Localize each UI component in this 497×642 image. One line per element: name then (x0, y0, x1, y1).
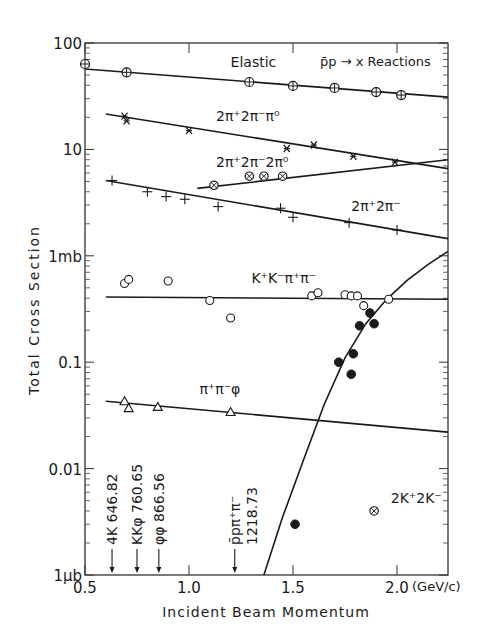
y-tick-label: 0.1 (58, 354, 82, 372)
marker-plus (344, 218, 354, 228)
series-label: 2π⁺2π⁻2π⁰ (216, 154, 289, 170)
marker-circle-plus (289, 81, 298, 90)
marker-filled-circle (355, 321, 364, 330)
marker-circle-plus (122, 68, 131, 77)
x-tick-label: 1.5 (281, 579, 305, 597)
y-tick-label: 1μb (53, 567, 82, 585)
y-axis-label: Total Cross Section (26, 225, 42, 396)
marker-circle (353, 292, 361, 300)
cross-section-chart: 0.51.01.52.0100101mb0.10.011μb Elastic2π… (0, 0, 497, 642)
chart-title: p̄p → x Reactions (320, 54, 431, 69)
marker-plus (288, 212, 298, 222)
marker-asterisk (186, 127, 192, 134)
marker-circle-plus (397, 91, 406, 100)
series-label: 2K⁺2K⁻ (391, 490, 442, 506)
marker-dot (347, 370, 356, 379)
threshold-label: 4K 646.82 (104, 473, 120, 545)
marker-plus (213, 202, 223, 212)
marker-plus (161, 192, 171, 202)
threshold-markers: 4K 646.82KKφ 760.65φφ 866.56p̄pπ⁺π⁻1218.… (104, 464, 260, 573)
marker-plus (392, 225, 402, 235)
series-labels: Elastic2π⁺2π⁻π⁰2π⁺2π⁻2π⁰2π⁺2π⁻K⁺K⁻π⁺π⁻π⁺… (199, 54, 441, 507)
series-label: 2π⁺2π⁻π⁰ (216, 108, 280, 124)
series-label: 2π⁺2π⁻ (351, 198, 400, 214)
marker-dot (349, 349, 358, 358)
marker-circle (125, 275, 133, 283)
marker-dot (291, 520, 300, 529)
plot-svg: 0.51.01.52.0100101mb0.10.011μb Elastic2π… (0, 0, 497, 642)
marker-circle-plus (81, 59, 90, 68)
threshold-label: φφ 866.56 (151, 473, 167, 545)
marker-circle-plus (245, 77, 254, 86)
marker-filled-circle (349, 349, 358, 358)
series-label: Elastic (231, 54, 277, 70)
marker-open-circle (314, 289, 322, 297)
marker-circle-plus (330, 83, 339, 92)
marker-open-circle (385, 295, 393, 303)
marker-circle-x (260, 172, 268, 180)
marker-plus (107, 176, 117, 186)
marker-asterisk (284, 145, 290, 152)
y-tick-label: 1mb (48, 248, 82, 266)
marker-circle (227, 314, 235, 322)
threshold-arrowhead (135, 567, 140, 573)
marker-circle-plus (372, 88, 381, 97)
y-tick-label: 0.01 (49, 461, 82, 479)
x-axis-label: Incident Beam Momentum (162, 604, 370, 620)
threshold-arrowhead (110, 567, 115, 573)
marker-plus (276, 203, 286, 213)
series-label: π⁺π⁻φ (199, 381, 240, 397)
marker-open-circle (206, 297, 214, 305)
marker-filled-circle (347, 370, 356, 379)
threshold-label: KKφ 760.65 (129, 464, 145, 545)
marker-circle-x (245, 172, 253, 180)
marker-filled-circle (334, 358, 343, 367)
fit-line (106, 297, 448, 299)
marker-open-circle (125, 275, 133, 283)
fit-line (85, 69, 448, 97)
marker-circle-x (210, 181, 218, 189)
marker-circle (360, 302, 368, 310)
marker-triangle (120, 397, 129, 405)
marker-open-circle (360, 302, 368, 310)
series-label: K⁺K⁻π⁺π⁻ (251, 270, 316, 286)
marker-dot (370, 319, 379, 328)
marker-dot (355, 321, 364, 330)
y-tick-label: 10 (63, 141, 82, 159)
data-markers (81, 59, 406, 528)
marker-open-circle (164, 277, 172, 285)
threshold-value: 1218.73 (244, 487, 260, 545)
marker-triangle (120, 397, 129, 405)
marker-circle (164, 277, 172, 285)
marker-plus (180, 194, 190, 204)
marker-circle-x (278, 172, 286, 180)
marker-filled-circle (366, 309, 375, 318)
marker-open-circle (353, 292, 361, 300)
y-tick-label: 100 (53, 35, 82, 53)
marker-circle (314, 289, 322, 297)
marker-dot (334, 358, 343, 367)
marker-circle (206, 297, 214, 305)
x-tick-label: 1.0 (177, 579, 201, 597)
x-tick-label: 2.0 (385, 579, 409, 597)
marker-filled-circle (291, 520, 300, 529)
threshold-arrowhead (156, 567, 161, 573)
marker-open-circle (227, 314, 235, 322)
marker-circle (385, 295, 393, 303)
threshold-label: p̄pπ⁺π⁻ (227, 496, 243, 545)
x-axis-unit: (GeV/c) (412, 579, 461, 594)
threshold-arrowhead (232, 567, 237, 573)
marker-dot (366, 309, 375, 318)
marker-circle-x (370, 507, 378, 515)
marker-filled-circle (370, 319, 379, 328)
